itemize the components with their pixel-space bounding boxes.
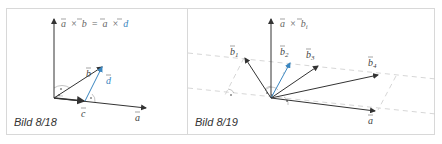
right-angle-arc: [54, 85, 70, 88]
figure-8-18: a × b = a × d b d c a Bild 8/18: [6, 8, 188, 135]
vector-c: [54, 98, 84, 101]
vector-a: [271, 98, 375, 111]
label-a: a: [368, 115, 373, 126]
label-c: c: [81, 108, 86, 119]
label-b: b: [86, 68, 91, 79]
label-b3: b3: [306, 49, 315, 62]
equation: a × bi: [280, 18, 308, 31]
label-d: d: [106, 75, 112, 86]
label-a: a: [135, 112, 140, 123]
label-b2: b2: [280, 46, 289, 59]
figure-caption: Bild 8/18: [14, 116, 57, 128]
dashed-guides: [188, 53, 436, 114]
figure-8-19: a × bi b1 b2 b3 b4 a Bild 8/19: [187, 8, 435, 135]
right-angle-arc: [92, 94, 95, 102]
vector-b2: [271, 63, 290, 98]
equation: a × b = a × d: [61, 18, 129, 29]
vector-b1: [245, 58, 271, 98]
label-b4: b4: [368, 57, 377, 70]
label-b1: b1: [230, 46, 239, 59]
figure-caption: Bild 8/19: [195, 116, 238, 128]
